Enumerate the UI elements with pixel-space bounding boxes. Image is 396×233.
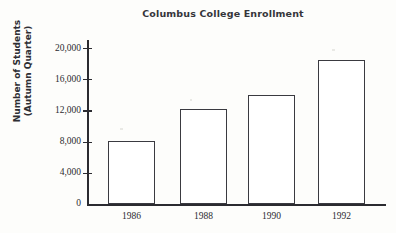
- bar: [318, 60, 365, 205]
- x-axis-line: [87, 204, 386, 206]
- y-axis-tick-mark: [83, 79, 92, 80]
- y-axis-title-line-1: Number of Students: [12, 20, 24, 122]
- y-axis-line: [87, 40, 89, 206]
- y-axis-title: Number of Students (Autumn Quarter): [8, 0, 38, 146]
- y-axis-tick-label: 16,000: [55, 74, 81, 84]
- x-axis-tick-label: 1986: [108, 211, 155, 221]
- scan-speckle: [120, 128, 123, 130]
- chart-title: Columbus College Enrollment: [0, 8, 396, 19]
- x-axis-tick-label: 1992: [318, 211, 365, 221]
- bar: [108, 141, 155, 204]
- y-axis-tick-label: 4,000: [60, 167, 81, 177]
- x-axis-tick-label: 1990: [248, 211, 295, 221]
- scan-speckle: [190, 99, 192, 101]
- y-axis-tick-mark: [83, 142, 92, 143]
- y-axis-title-line-2: (Autumn Quarter): [23, 26, 35, 117]
- bar-chart-figure: Columbus College Enrollment Number of St…: [0, 0, 396, 233]
- y-axis-tick-mark: [83, 48, 92, 49]
- y-axis-tick-label: 8,000: [60, 136, 81, 146]
- y-axis-tick-mark: [83, 110, 92, 111]
- x-axis-tick-label: 1988: [180, 211, 227, 221]
- scan-speckle: [332, 49, 335, 51]
- plot-area: 04,0008,00012,00016,00020,000 1986198819…: [87, 40, 386, 206]
- y-axis-tick-label: 0: [76, 198, 81, 208]
- bar: [248, 95, 295, 205]
- y-axis-tick-label: 20,000: [55, 43, 81, 53]
- y-axis-tick-label: 12,000: [55, 105, 81, 115]
- y-axis-tick-mark: [83, 173, 92, 174]
- bar: [180, 109, 227, 204]
